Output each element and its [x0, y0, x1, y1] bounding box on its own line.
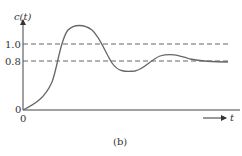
- x-axis-label: t: [230, 112, 235, 123]
- figure-caption: (b): [113, 136, 127, 147]
- y-axis-label: c(t): [14, 11, 32, 22]
- y-tick-1.0: 1.0: [5, 39, 21, 50]
- y-tick-0.8: 0.8: [5, 56, 21, 67]
- response-curve: [23, 26, 228, 111]
- step-response-chart: c(t) 1.0 0.8 0 0 t (b): [0, 0, 242, 156]
- x-tick-0: 0: [20, 113, 26, 124]
